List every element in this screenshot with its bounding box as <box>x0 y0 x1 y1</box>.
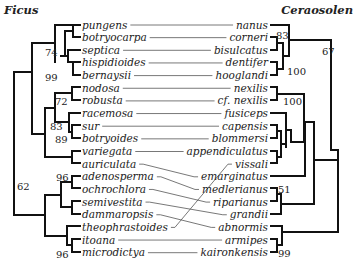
right-taxon-label: nexilis <box>234 82 269 94</box>
right-taxon-label: abnormis <box>218 221 268 233</box>
support-value: 62 <box>17 181 30 192</box>
left-taxon-label: itoana <box>82 234 115 246</box>
left-taxon-label: adenosperma <box>82 170 154 182</box>
association-link <box>157 177 199 190</box>
right-taxon-label: grandii <box>230 208 268 220</box>
right-taxon-label: hooglandi <box>215 69 268 81</box>
support-value: 74 <box>45 47 58 58</box>
left-taxon-label: sur <box>82 120 100 132</box>
left-taxon-label: pungens <box>82 19 128 31</box>
right-taxa: nanuscorneribisulcatusdentiferhooglandin… <box>187 19 269 259</box>
left-taxon-label: variegata <box>82 145 132 157</box>
right-taxon-label: blommersi <box>212 132 268 144</box>
left-taxon-label: septica <box>82 44 120 56</box>
support-value: 96 <box>56 172 69 183</box>
support-value: 100 <box>287 66 306 77</box>
left-taxon-label: auriculata <box>82 158 136 170</box>
left-taxon-label: racemosa <box>82 107 133 119</box>
association-link <box>149 189 210 202</box>
right-phylogeny <box>271 25 338 252</box>
left-taxon-label: nodosa <box>82 82 120 94</box>
right-taxon-label: dentifer <box>226 56 269 68</box>
support-value: 96 <box>56 249 69 260</box>
left-taxon-label: ochrochlora <box>82 183 146 195</box>
right-taxon-label: vissali <box>235 158 268 170</box>
right-taxon-label: capensis <box>222 120 269 132</box>
left-taxon-label: botryocarpa <box>82 31 147 43</box>
right-taxon-label: appendiculatus <box>187 145 269 157</box>
right-taxon-label: cf. nexilis <box>218 94 269 106</box>
right-taxon-label: bisulcatus <box>214 44 269 56</box>
right-taxon-label: riparianus <box>213 196 269 208</box>
right-taxon-label: armipes <box>225 234 269 246</box>
tanglegram: Ficus Ceraosolen <box>0 0 357 265</box>
left-taxon-label: bernaysii <box>82 69 131 81</box>
left-taxa: pungensbotryocarpasepticahispidioidesber… <box>82 19 169 259</box>
left-taxon-label: theophrastoides <box>82 221 169 233</box>
support-value: 51 <box>278 184 291 195</box>
right-taxon-label: fusiceps <box>223 107 268 119</box>
left-tree-title: Ficus <box>3 3 39 17</box>
support-value: 99 <box>45 72 58 83</box>
support-value: 83 <box>50 121 63 132</box>
bootstrap-support-values: 749972838962969683671001005199 <box>17 30 335 260</box>
right-taxon-label: nanus <box>236 19 269 31</box>
support-value: 72 <box>55 96 68 107</box>
left-taxon-label: semivestita <box>82 196 143 208</box>
left-taxon-label: dammaropsis <box>82 208 154 220</box>
support-value: 99 <box>278 248 291 259</box>
support-value: 100 <box>283 96 302 107</box>
support-value: 83 <box>276 30 289 41</box>
right-taxon-label: corneri <box>229 31 268 43</box>
right-tree-title: Ceraosolen <box>281 3 353 17</box>
left-taxon-label: robusta <box>82 94 123 106</box>
right-taxon-label: kaironkensis <box>200 246 268 258</box>
right-taxon-label: emarginatus <box>201 170 269 182</box>
right-taxon-label: medlerianus <box>202 183 269 195</box>
left-phylogeny <box>14 25 80 252</box>
left-taxon-label: hispidioides <box>82 56 146 68</box>
left-taxon-label: botryoides <box>82 132 139 144</box>
left-taxon-label: microdictya <box>82 246 145 258</box>
support-value: 67 <box>322 46 335 57</box>
support-value: 89 <box>55 134 68 145</box>
